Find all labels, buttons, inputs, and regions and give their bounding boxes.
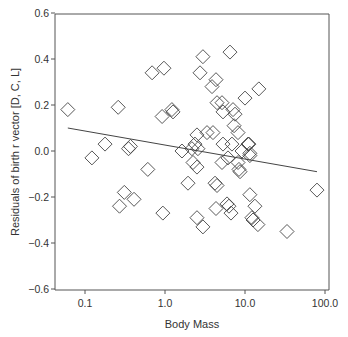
diamond-marker — [252, 82, 266, 96]
diamond-marker — [190, 211, 204, 225]
diamond-marker — [215, 96, 229, 110]
x-tick-label: 100.0 — [312, 297, 338, 309]
diamond-marker — [111, 100, 125, 114]
diamond-marker — [310, 183, 324, 197]
diamond-marker — [122, 142, 136, 156]
y-axis: 0.60.40.20.0−0.2−0.4−0.6 — [28, 7, 55, 295]
diamond-marker — [208, 176, 222, 190]
diamond-marker — [85, 151, 99, 165]
y-tick-label: −0.4 — [28, 237, 49, 249]
y-tick-label: −0.2 — [28, 191, 49, 203]
diamond-marker — [190, 160, 204, 174]
y-tick-label: 0.2 — [34, 99, 49, 111]
diamond-marker — [205, 80, 219, 94]
diamond-marker — [196, 220, 210, 234]
diamond-marker — [238, 91, 252, 105]
x-tick-label: 0.1 — [78, 297, 93, 309]
x-tick-label: 10.0 — [235, 297, 256, 309]
diamond-marker — [196, 50, 210, 64]
diamond-marker — [113, 199, 127, 213]
diamond-marker — [206, 126, 220, 140]
diamond-marker — [231, 126, 245, 140]
y-axis-label: Residuals of birth r vector [D, C, L] — [9, 68, 21, 236]
x-tick-label: 1.0 — [158, 297, 173, 309]
diamond-marker — [61, 103, 75, 117]
diamond-marker — [223, 45, 237, 59]
diamond-marker — [210, 179, 224, 193]
diamond-marker — [280, 225, 294, 239]
scatter-chart: 0.60.40.20.0−0.2−0.4−0.6 0.11.010.0100.0… — [0, 0, 348, 337]
diamond-marker — [215, 156, 229, 170]
diamond-marker — [156, 206, 170, 220]
chart-canvas: 0.60.40.20.0−0.2−0.4−0.6 0.11.010.0100.0… — [0, 0, 348, 337]
y-tick-label: 0.6 — [34, 7, 49, 19]
diamond-marker — [224, 206, 238, 220]
diamond-marker — [123, 139, 137, 153]
diamond-marker — [141, 162, 155, 176]
diamond-marker — [98, 137, 112, 151]
diamond-marker — [251, 218, 265, 232]
x-axis: 0.11.010.0100.0 — [78, 290, 339, 309]
diamond-marker — [186, 156, 200, 170]
y-tick-label: 0.4 — [34, 53, 49, 65]
y-tick-label: 0.0 — [34, 145, 49, 157]
diamond-marker — [222, 199, 236, 213]
plot-frame — [55, 14, 329, 290]
diamond-marker — [210, 96, 224, 110]
data-points — [61, 45, 324, 238]
diamond-marker — [181, 176, 195, 190]
diamond-marker — [216, 137, 230, 151]
diamond-marker — [193, 66, 207, 80]
x-axis-label: Body Mass — [165, 318, 220, 330]
diamond-marker — [209, 73, 223, 87]
y-tick-label: −0.6 — [28, 283, 49, 295]
diamond-marker — [221, 151, 235, 165]
